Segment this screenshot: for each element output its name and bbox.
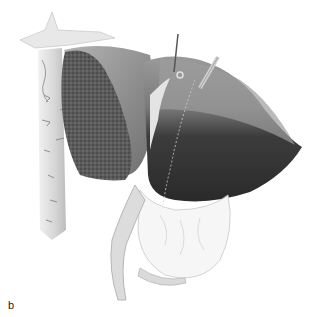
liver-illustration xyxy=(0,0,309,317)
lower-tissue xyxy=(138,190,230,278)
diaphragm-tissue xyxy=(20,12,115,48)
panel-label: b xyxy=(8,300,14,311)
